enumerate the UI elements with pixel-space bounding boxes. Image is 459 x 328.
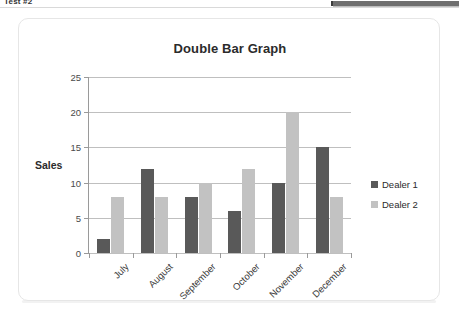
gridline [89,183,351,184]
legend-item[interactable]: Dealer 2 [371,199,451,210]
legend-item[interactable]: Dealer 1 [371,179,451,190]
bar [141,169,154,253]
legend-label: Dealer 2 [382,199,418,210]
x-axis-label: September [177,261,218,302]
y-tick-label: 15 [70,142,81,153]
x-axis-label: October [230,261,262,293]
y-axis-title: Sales [35,159,62,171]
gridline [89,218,351,219]
x-tick-mark [133,253,134,258]
chart-title: Double Bar Graph [19,41,441,56]
plot-area: 0510152025JulyAugustSeptemberOctoberNove… [89,77,351,253]
x-tick-mark [220,253,221,258]
bar [111,197,124,253]
x-axis-label: August [146,261,175,290]
y-tick-mark [84,147,89,148]
legend-label: Dealer 1 [382,179,418,190]
y-axis-line [88,77,89,254]
y-tick-label: 25 [70,72,81,83]
bar [199,183,212,253]
screenshot-root: Test #2 Double Bar Graph Sales 051015202… [0,0,459,328]
legend-swatch-icon [371,201,378,208]
bar [155,197,168,253]
x-tick-mark [176,253,177,258]
bar [185,197,198,253]
bar [228,211,241,253]
bar [330,197,343,253]
x-axis-label: July [111,261,131,281]
y-tick-mark [84,183,89,184]
legend-swatch-icon [371,181,378,188]
bar [242,169,255,253]
x-tick-mark [89,253,90,258]
browser-chrome-strip: Test #2 [0,0,459,9]
bar [97,239,110,253]
bar [272,183,285,253]
y-tick-mark [84,218,89,219]
x-axis-label: December [310,261,349,300]
y-tick-label: 5 [76,212,81,223]
chart-legend: Dealer 1Dealer 2 [371,179,451,219]
browser-tab-label[interactable]: Test #2 [4,0,32,6]
y-tick-label: 0 [76,248,81,259]
x-tick-mark [264,253,265,258]
chart-card: Double Bar Graph Sales 0510152025JulyAug… [18,18,440,301]
x-tick-mark [351,253,352,258]
y-tick-mark [84,77,89,78]
bar [286,112,299,253]
y-tick-mark [84,112,89,113]
y-tick-label: 20 [70,107,81,118]
x-tick-mark [307,253,308,258]
gridline [89,147,351,148]
chrome-divider [0,7,459,8]
x-axis-label: November [267,261,306,300]
gridline [89,77,351,78]
gridline [89,112,351,113]
y-tick-label: 10 [70,177,81,188]
bar [316,147,329,253]
